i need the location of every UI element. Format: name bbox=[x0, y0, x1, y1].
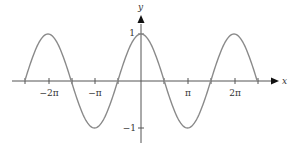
cosine-chart: x y −2π −π π 2π 1 −1 bbox=[0, 0, 290, 149]
tick-label-pi: π bbox=[185, 88, 191, 98]
x-axis-label: x bbox=[282, 76, 287, 86]
tick-label-y-1: 1 bbox=[129, 28, 135, 38]
tick-label-neg-2pi: −2π bbox=[39, 88, 58, 98]
tick-label-2pi: 2π bbox=[229, 88, 241, 98]
y-axis-arrow-icon bbox=[138, 15, 145, 23]
x-axis-arrow-icon bbox=[271, 78, 279, 85]
tick-label-neg-pi: −π bbox=[88, 88, 102, 98]
tick-label-y-neg1: −1 bbox=[123, 123, 136, 133]
y-axis-label: y bbox=[137, 2, 144, 12]
